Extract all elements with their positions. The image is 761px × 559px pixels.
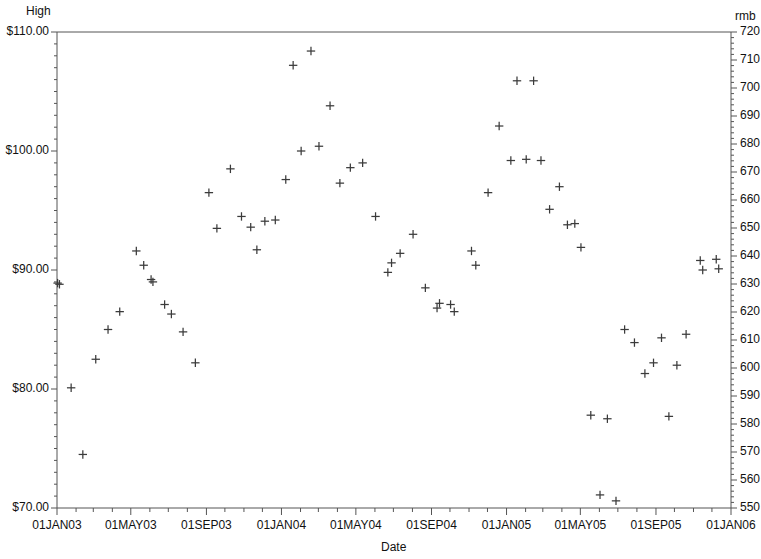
- y2-axis-tick-label: 700: [740, 80, 761, 94]
- data-point: [612, 497, 620, 505]
- data-point: [620, 325, 628, 333]
- y2-axis-tick-label: 560: [740, 472, 761, 486]
- y2-axis-tick-label: 660: [740, 192, 761, 206]
- x-axis-tick-label: 01JAN06: [686, 518, 761, 532]
- data-point: [213, 224, 221, 232]
- y2-axis-tick-label: 570: [740, 444, 761, 458]
- y-axis-tick-label: $110.00: [0, 24, 49, 38]
- y2-axis-tick-label: 580: [740, 416, 761, 430]
- data-point: [522, 155, 530, 163]
- data-point: [699, 266, 707, 274]
- data-point: [446, 300, 454, 308]
- data-point: [160, 300, 168, 308]
- data-point: [261, 217, 269, 225]
- data-point: [384, 268, 392, 276]
- data-point: [563, 221, 571, 229]
- data-point: [247, 223, 255, 231]
- y2-axis-tick-label: 610: [740, 332, 761, 346]
- data-point: [409, 230, 417, 238]
- data-point: [529, 77, 537, 85]
- data-point: [712, 255, 720, 263]
- y2-axis-tick-label: 630: [740, 276, 761, 290]
- y2-axis-tick-label: 600: [740, 360, 761, 374]
- data-point: [282, 175, 290, 183]
- data-point: [571, 219, 579, 227]
- data-point: [289, 61, 297, 69]
- data-point: [179, 328, 187, 336]
- data-point: [116, 307, 124, 315]
- data-point: [336, 179, 344, 187]
- data-point: [253, 246, 261, 254]
- data-point: [297, 147, 305, 155]
- data-point: [237, 212, 245, 220]
- y-axis-tick-label: $80.00: [0, 381, 49, 395]
- data-point: [682, 330, 690, 338]
- data-point: [271, 216, 279, 224]
- y2-axis-tick-label: 640: [740, 248, 761, 262]
- data-point: [641, 369, 649, 377]
- y-axis-tick-label: $70.00: [0, 500, 49, 514]
- data-point: [104, 325, 112, 333]
- data-point: [657, 334, 665, 342]
- data-point: [467, 247, 475, 255]
- data-point: [596, 491, 604, 499]
- data-point: [545, 205, 553, 213]
- data-point: [371, 212, 379, 220]
- data-point: [226, 165, 234, 173]
- data-point: [326, 102, 334, 110]
- data-point: [450, 307, 458, 315]
- data-point: [507, 156, 515, 164]
- scatter-chart: High rmb Date $110.00$100.00$90.00$80.00…: [0, 0, 761, 559]
- data-point: [673, 361, 681, 369]
- y2-axis-tick-label: 690: [740, 108, 761, 122]
- x-axis-ticks: [57, 508, 731, 515]
- data-point: [649, 359, 657, 367]
- data-point: [537, 156, 545, 164]
- data-point: [421, 284, 429, 292]
- data-point: [387, 259, 395, 267]
- data-point: [67, 384, 75, 392]
- y2-axis-tick-label: 620: [740, 304, 761, 318]
- data-point: [307, 47, 315, 55]
- data-point: [555, 183, 563, 191]
- data-point: [346, 163, 354, 171]
- data-point: [396, 249, 404, 257]
- data-point: [513, 77, 521, 85]
- y2-axis-tick-label: 710: [740, 52, 761, 66]
- y-axis-tick-label: $90.00: [0, 262, 49, 276]
- data-point: [132, 247, 140, 255]
- y2-axis-tick-label: 590: [740, 388, 761, 402]
- y-axis-ticks: [51, 32, 57, 508]
- y-axis-tick-label: $100.00: [0, 143, 49, 157]
- data-point: [315, 142, 323, 150]
- data-point: [472, 261, 480, 269]
- data-point: [696, 256, 704, 264]
- y2-axis-tick-label: 550: [740, 500, 761, 514]
- data-point: [358, 159, 366, 167]
- y2-axis-ticks: [731, 32, 737, 508]
- data-point: [603, 415, 611, 423]
- data-point: [630, 338, 638, 346]
- data-point: [715, 265, 723, 273]
- plot-canvas: [0, 0, 761, 559]
- y2-axis-tick-label: 680: [740, 136, 761, 150]
- data-point: [140, 261, 148, 269]
- data-point: [587, 411, 595, 419]
- data-point: [665, 412, 673, 420]
- data-point: [495, 122, 503, 130]
- y2-axis-tick-label: 670: [740, 164, 761, 178]
- data-point: [167, 310, 175, 318]
- data-point: [92, 355, 100, 363]
- data-point: [191, 359, 199, 367]
- plot-frame: [57, 32, 731, 508]
- data-point: [484, 188, 492, 196]
- y2-axis-tick-label: 650: [740, 220, 761, 234]
- data-point: [205, 188, 213, 196]
- y2-axis-tick-label: 720: [740, 24, 761, 38]
- data-point: [577, 243, 585, 251]
- data-point: [53, 279, 61, 287]
- data-point-group: [53, 47, 722, 505]
- data-point: [79, 450, 87, 458]
